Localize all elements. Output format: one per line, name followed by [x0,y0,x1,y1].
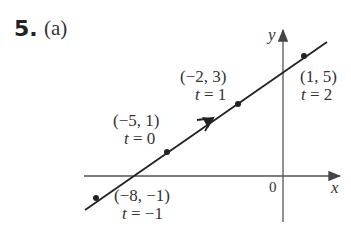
origin-label: 0 [269,179,277,195]
point-label-coord: (−5, 1) [113,111,159,130]
point-label-coord: (1, 5) [300,67,337,86]
point-t-2 [301,53,307,59]
point-label-param: t = 1 [195,85,226,104]
point-label-param: t = 2 [301,85,332,104]
point-t-0 [164,149,170,155]
point-t-1 [235,101,241,107]
point-label-param: t = 0 [124,129,155,148]
point-label-param: t = −1 [122,204,163,223]
y-axis-label: y [266,25,276,44]
point-label-coord: (−2, 3) [180,67,226,86]
x-axis-label: x [330,178,339,197]
parametric-line-figure: y x 0 (−8, −1) t = −1 (−5, 1) t = 0 (−2,… [0,0,351,228]
point-label-coord: (−8, −1) [114,186,170,205]
point-t-neg1 [93,195,99,201]
